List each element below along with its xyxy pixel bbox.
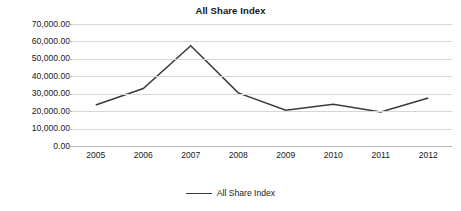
gridline — [72, 129, 452, 130]
gridline — [72, 41, 452, 42]
gridline — [72, 94, 452, 95]
chart-legend: All Share Index — [0, 188, 461, 198]
chart-title: All Share Index — [0, 5, 461, 16]
y-axis-tick-label: 70,000.00 — [4, 20, 70, 29]
y-axis-tick-label: 30,000.00 — [4, 89, 70, 98]
chart-container: All Share Index 0.0010,000.0020,000.0030… — [0, 0, 461, 211]
y-axis: 0.0010,000.0020,000.0030,000.0040,000.00… — [0, 24, 70, 146]
x-axis-tick-label: 2008 — [229, 150, 248, 160]
y-axis-tick-label: 10,000.00 — [4, 124, 70, 133]
x-axis-tick-label: 2005 — [86, 150, 105, 160]
y-axis-tick-label: 20,000.00 — [4, 107, 70, 116]
x-axis-tick-label: 2009 — [276, 150, 295, 160]
legend-line-marker — [186, 193, 212, 194]
plot-area — [72, 24, 452, 146]
x-axis-tick-label: 2010 — [324, 150, 343, 160]
gridline — [72, 146, 452, 147]
gridline — [72, 24, 452, 25]
x-axis-tick-label: 2011 — [372, 150, 390, 160]
gridline — [72, 76, 452, 77]
x-axis-tick-label: 2012 — [419, 150, 438, 160]
y-axis-tick-label: 60,000.00 — [4, 37, 70, 46]
y-axis-tick-label: 40,000.00 — [4, 72, 70, 81]
x-axis-tick-label: 2006 — [134, 150, 153, 160]
legend-label: All Share Index — [217, 188, 275, 198]
x-axis-tick-label: 2007 — [181, 150, 200, 160]
y-axis-tick-label: 0.00 — [4, 142, 70, 151]
gridline — [72, 59, 452, 60]
x-axis: 20052006200720082009201020112012 — [72, 150, 452, 164]
y-axis-tick-label: 50,000.00 — [4, 54, 70, 63]
gridline — [72, 111, 452, 112]
